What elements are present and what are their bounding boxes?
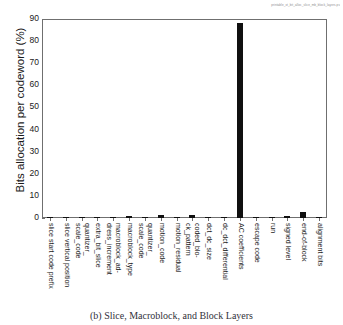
x-tick-mark [272, 218, 273, 221]
y-tick-label: 50 [16, 101, 39, 111]
x-tick-mark [287, 218, 288, 221]
x-tick-label: end-of-block [299, 223, 308, 309]
x-tick-mark [224, 218, 225, 221]
y-tick-label: 30 [16, 146, 39, 156]
bar-series [42, 19, 327, 218]
header-annotation-text: printable_xt_bit_alloc_slice_mb_block_la… [210, 3, 340, 8]
bar [237, 23, 243, 218]
x-tick-mark [145, 218, 146, 221]
x-tick-label: alignment bits [315, 223, 324, 309]
y-tick-label: 90 [16, 13, 39, 23]
x-tick-label-line: ck_pattern [184, 223, 193, 309]
x-tick-mark [240, 218, 241, 221]
x-tick-label: motion_code [156, 223, 165, 309]
figure-bits-allocation-slice-macroblock-block: printable_xt_bit_alloc_slice_mb_block_la… [0, 0, 343, 325]
x-tick-label: coded_blo-ck_pattern [183, 223, 201, 309]
x-tick-mark [82, 218, 83, 221]
x-tick-label: motion_residual [172, 223, 181, 309]
x-tick-mark [129, 218, 130, 221]
y-tick-label: 10 [16, 190, 39, 200]
x-tick-label: run [267, 223, 276, 309]
y-tick-label: 20 [16, 168, 39, 178]
x-tick-label: AC coefficients [235, 223, 244, 309]
x-tick-label-line: scale_code [137, 223, 146, 309]
x-tick-label-line: quantizer_ [147, 223, 154, 256]
x-tick-label: dct_dc_size [204, 223, 213, 309]
x-tick-label: dc_dct_differential [220, 223, 229, 309]
x-tick-label: signed level [283, 223, 292, 309]
x-tick-mark [192, 218, 193, 221]
x-tick-mark [161, 218, 162, 221]
x-tick-mark [177, 218, 178, 221]
x-tick-label-line: macroblock_ad- [115, 223, 122, 273]
x-tick-mark [97, 218, 98, 221]
x-tick-label: quantizer_scale_code [73, 223, 91, 309]
x-tick-label: slice start code prefix [45, 223, 54, 309]
x-tick-mark [66, 218, 67, 221]
figure-caption: (b) Slice, Macroblock, and Block Layers [0, 310, 343, 321]
x-tick-label: escape code [251, 223, 260, 309]
x-tick-label: slice vertical position [61, 223, 70, 309]
x-tick-label: extra_bit_slice [93, 223, 102, 309]
x-tick-mark [50, 218, 51, 221]
y-tick-label: 40 [16, 124, 39, 134]
y-tick-mark [42, 218, 45, 219]
x-tick-mark [319, 218, 320, 221]
x-tick-mark [256, 218, 257, 221]
y-tick-label: 60 [16, 79, 39, 89]
x-tick-label-line: dress_increment [105, 223, 114, 309]
x-tick-label-line: quantizer_ [84, 223, 91, 256]
x-tick-mark [208, 218, 209, 221]
y-tick-label: 0 [16, 212, 39, 222]
x-tick-label: quantizer_scale_code [136, 223, 154, 309]
x-tick-mark [303, 218, 304, 221]
x-tick-label: macroblock_ad-dress_increment [104, 223, 122, 309]
x-tick-label: macroblock_type [125, 223, 134, 309]
x-tick-label-line: scale_code [74, 223, 83, 309]
x-tick-mark [113, 218, 114, 221]
x-tick-label-line: coded_blo- [194, 223, 201, 258]
y-tick-label: 70 [16, 57, 39, 67]
y-tick-label: 80 [16, 35, 39, 45]
